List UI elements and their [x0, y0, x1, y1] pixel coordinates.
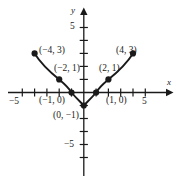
graph-figure: x y −5 5 5 −5 (−4, 3) (−2, 1) (−1, 0) (0… [0, 0, 179, 176]
point-label-neg2-1: (−2, 1) [54, 64, 80, 74]
point-label-neg4-3: (−4, 3) [39, 46, 65, 56]
x-tick-label-5: 5 [142, 97, 147, 107]
x-axis [8, 88, 174, 96]
coordinate-plane [0, 0, 179, 176]
data-point-0-neg1 [81, 102, 87, 108]
data-point-neg4-3 [31, 50, 37, 56]
point-label-0-neg1: (0, −1) [53, 111, 79, 121]
point-label-neg1-0: (−1, 0) [39, 96, 65, 106]
point-label-1-0: (1, 0) [106, 96, 127, 106]
y-axis [80, 8, 88, 177]
data-point-neg1-0 [68, 89, 74, 95]
y-tick-label-5: 5 [70, 22, 75, 32]
x-tick-label-neg5: −5 [9, 97, 19, 107]
x-axis-label: x [167, 78, 171, 87]
data-point-neg2-1 [56, 76, 62, 82]
point-label-4-3: (4, 3) [116, 46, 137, 56]
point-label-2-1: (2, 1) [99, 64, 120, 74]
data-point-1-0 [93, 89, 99, 95]
data-point-2-1 [105, 76, 111, 82]
y-tick-label-neg5: −5 [64, 140, 74, 150]
y-axis-label: y [71, 6, 75, 15]
